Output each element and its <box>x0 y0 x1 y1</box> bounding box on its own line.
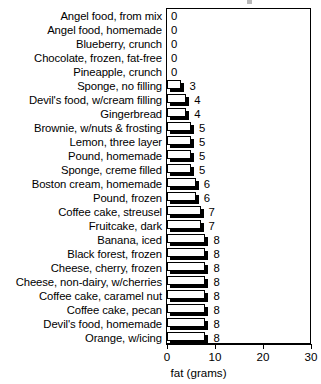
category-label: Pound, frozen <box>93 192 162 204</box>
bar-value-label: 0 <box>171 10 177 22</box>
scan-artifact <box>247 0 252 4</box>
bar-body <box>167 304 205 313</box>
bar-row: Pound, homemade5 <box>0 148 321 163</box>
bar-row: Devil's food, homemade8 <box>0 316 321 331</box>
bar <box>167 220 201 232</box>
bar-value-label: 6 <box>204 192 210 204</box>
bar <box>167 304 205 316</box>
bar <box>167 248 205 260</box>
bar-body <box>167 80 181 89</box>
bar-row: Sponge, creme filled5 <box>0 162 321 177</box>
category-label: Angel food, from mix <box>60 10 162 22</box>
bar-body <box>167 164 191 173</box>
x-axis-title: fat (grams) <box>0 366 321 379</box>
bar-row: Coffee cake, pecan8 <box>0 302 321 317</box>
bar-body <box>167 276 205 285</box>
bar-body <box>167 150 191 159</box>
bar-value-label: 6 <box>204 178 210 190</box>
category-label: Banana, iced <box>97 234 162 246</box>
bar-value-label: 8 <box>213 234 219 246</box>
category-label: Orange, w/icing <box>85 332 162 344</box>
x-axis-title-text: fat (grams) <box>94 366 226 379</box>
bar-row: Chocolate, frozen, fat-free0 <box>0 50 321 65</box>
bar <box>167 234 205 246</box>
bar-value-label: 0 <box>171 66 177 78</box>
bar-value-label: 0 <box>171 24 177 36</box>
bar <box>167 150 191 162</box>
bar-body <box>167 318 205 327</box>
category-label: Devil's food, homemade <box>43 318 162 330</box>
category-label: Pound, homemade <box>68 150 162 162</box>
bar-body <box>167 262 205 271</box>
bar-value-label: 7 <box>209 220 215 232</box>
x-tick <box>311 344 312 349</box>
category-label: Cheese, non-dairy, w/cherries <box>16 276 162 288</box>
bar-value-label: 7 <box>209 206 215 218</box>
bar <box>167 178 196 190</box>
bar-body <box>167 122 191 131</box>
bar-row: Pound, frozen6 <box>0 190 321 205</box>
bar-body <box>167 206 201 215</box>
category-label: Sponge, no filling <box>77 80 162 92</box>
category-label: Blueberry, crunch <box>76 38 162 50</box>
bar-value-label: 3 <box>189 80 195 92</box>
bar-chart: Angel food, from mix0Angel food, homemad… <box>0 0 321 384</box>
bar-row: Gingerbread4 <box>0 106 321 121</box>
bar-row: Sponge, no filling3 <box>0 78 321 93</box>
category-label: Cheese, cherry, frozen <box>51 262 162 274</box>
bar <box>167 262 205 274</box>
bar-value-label: 0 <box>171 38 177 50</box>
bar-body <box>167 108 186 117</box>
bar-row: Orange, w/icing8 <box>0 330 321 345</box>
bar-body <box>167 178 196 187</box>
x-tick <box>167 344 168 349</box>
bar-value-label: 0 <box>171 52 177 64</box>
bar-value-label: 8 <box>213 262 219 274</box>
category-label: Pineapple, crunch <box>73 66 162 78</box>
bar <box>167 206 201 218</box>
bar <box>167 290 205 302</box>
bar-row: Blueberry, crunch0 <box>0 36 321 51</box>
bar-value-label: 8 <box>213 318 219 330</box>
bar-row: Coffee cake, streusel7 <box>0 204 321 219</box>
bar-value-label: 5 <box>199 164 205 176</box>
x-tick-label: 30 <box>305 350 318 363</box>
bar-row: Fruitcake, dark7 <box>0 218 321 233</box>
category-label: Chocolate, frozen, fat-free <box>34 52 162 64</box>
bar-value-label: 5 <box>199 122 205 134</box>
x-tick <box>215 344 216 349</box>
category-label: Coffee cake, caramel nut <box>39 290 162 302</box>
category-label: Boston cream, homemade <box>32 178 162 190</box>
bar <box>167 318 205 330</box>
bar-body <box>167 136 191 145</box>
bar-row: Cheese, cherry, frozen8 <box>0 260 321 275</box>
bar-value-label: 5 <box>199 150 205 162</box>
bar-value-label: 5 <box>199 136 205 148</box>
category-label: Angel food, homemade <box>47 24 162 36</box>
category-label: Coffee cake, pecan <box>67 304 162 316</box>
bar <box>167 192 196 204</box>
bar-row: Lemon, three layer5 <box>0 134 321 149</box>
bar-body <box>167 248 205 257</box>
bar-value-label: 4 <box>194 94 200 106</box>
bar-body <box>167 220 201 229</box>
bar-value-label: 8 <box>213 276 219 288</box>
x-tick-label: 20 <box>257 350 270 363</box>
category-label: Black forest, frozen <box>67 248 162 260</box>
bar-body <box>167 94 186 103</box>
bar-row: Banana, iced8 <box>0 232 321 247</box>
bar-body <box>167 192 196 201</box>
bar-value-label: 4 <box>194 108 200 120</box>
bar <box>167 276 205 288</box>
bar-row: Boston cream, homemade6 <box>0 176 321 191</box>
bar <box>167 94 186 106</box>
bar-value-label: 8 <box>213 304 219 316</box>
bar-row: Coffee cake, caramel nut8 <box>0 288 321 303</box>
bar <box>167 122 191 134</box>
bar-value-label: 8 <box>213 290 219 302</box>
bar-row: Angel food, from mix0 <box>0 8 321 23</box>
bar-row: Pineapple, crunch0 <box>0 64 321 79</box>
bar <box>167 80 181 92</box>
category-label: Devil's food, w/cream filling <box>29 94 162 106</box>
bar-rows: Angel food, from mix0Angel food, homemad… <box>0 8 321 344</box>
